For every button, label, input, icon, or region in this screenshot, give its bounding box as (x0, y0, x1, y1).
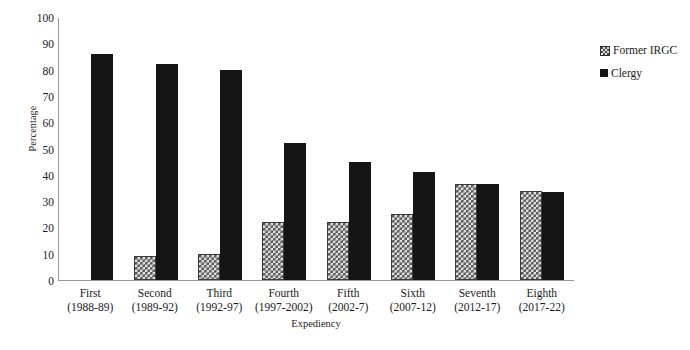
bar-slot (220, 18, 252, 280)
x-label-period: (2017-22) (510, 300, 575, 314)
bar-irgc[interactable] (134, 256, 156, 280)
y-axis-tick-20: 20 (24, 223, 54, 234)
bar-slot (59, 18, 91, 280)
bar-slot (317, 18, 349, 280)
bar-slot (91, 18, 123, 280)
bar-clergy[interactable] (220, 70, 242, 280)
y-axis-tick-50: 50 (24, 144, 54, 155)
bar-group (317, 18, 381, 280)
bar-irgc[interactable] (327, 222, 349, 280)
bar-slot (188, 18, 220, 280)
y-axis-tick-40: 40 (24, 170, 54, 181)
bar-slot (284, 18, 316, 280)
bar-slot (123, 18, 155, 280)
bar-slot (252, 18, 284, 280)
bar-group (123, 18, 187, 280)
bar-clergy[interactable] (284, 143, 306, 280)
checkered-square-icon (600, 46, 610, 56)
y-axis-tick-80: 80 (24, 65, 54, 76)
bar-group (445, 18, 509, 280)
x-label-name: Third (206, 287, 232, 299)
y-axis-tick-labels: 1009080706050403020100 (24, 0, 54, 350)
bar-irgc[interactable] (198, 254, 220, 280)
legend-item[interactable]: Former IRGC (600, 44, 688, 57)
bar-irgc[interactable] (520, 191, 542, 280)
bar-slot (510, 18, 542, 280)
x-axis-tick-labels: First(1988-89)Second(1989-92)Third(1992-… (58, 286, 574, 314)
bar-irgc[interactable] (455, 184, 477, 280)
x-label-name: Eighth (526, 287, 557, 299)
x-axis-title: Expediency (58, 318, 574, 329)
x-axis-tick-label: Second(1989-92) (123, 286, 188, 314)
x-axis-tick-label: Third(1992-97) (187, 286, 252, 314)
bar-slot (542, 18, 574, 280)
x-label-period: (1989-92) (123, 300, 188, 314)
y-axis-tick-30: 30 (24, 197, 54, 208)
x-label-name: Seventh (459, 287, 496, 299)
x-axis-tick-label: Eighth(2017-22) (510, 286, 575, 314)
bar-slot (413, 18, 445, 280)
bar-group (252, 18, 316, 280)
x-label-period: (2012-17) (445, 300, 510, 314)
x-label-name: Sixth (401, 287, 425, 299)
bar-irgc[interactable] (262, 222, 284, 280)
legend-item-label: Former IRGC (613, 44, 677, 57)
x-axis-tick-label: Fourth(1997-2002) (252, 286, 317, 314)
y-axis-tick-90: 90 (24, 39, 54, 50)
solid-square-icon (600, 69, 608, 77)
legend-item-label: Clergy (611, 67, 642, 80)
y-axis-tick-60: 60 (24, 118, 54, 129)
x-label-period: (1992-97) (187, 300, 252, 314)
bar-irgc[interactable] (391, 214, 413, 280)
y-axis-tick-0: 0 (24, 276, 54, 287)
bar-chart: Percentage 1009080706050403020100 First(… (0, 0, 690, 350)
x-label-name: Fourth (268, 287, 299, 299)
x-axis-tick-label: Seventh(2012-17) (445, 286, 510, 314)
x-axis-tick-label: Fifth(2002-7) (316, 286, 381, 314)
bar-group (381, 18, 445, 280)
bar-groups (59, 18, 574, 280)
bar-clergy[interactable] (91, 54, 113, 280)
y-axis-tick-70: 70 (24, 91, 54, 102)
bar-slot (445, 18, 477, 280)
y-axis-tick-100: 100 (24, 13, 54, 24)
plot-area (58, 18, 574, 281)
bar-slot (381, 18, 413, 280)
bar-clergy[interactable] (477, 184, 499, 280)
bar-clergy[interactable] (542, 192, 564, 280)
bar-clergy[interactable] (349, 162, 371, 280)
x-label-period: (1988-89) (58, 300, 123, 314)
x-label-name: Second (138, 287, 172, 299)
bar-group (188, 18, 252, 280)
bar-slot (156, 18, 188, 280)
bar-clergy[interactable] (413, 172, 435, 280)
legend: Former IRGCClergy (600, 44, 688, 90)
bar-clergy[interactable] (156, 64, 178, 280)
x-label-name: First (80, 287, 101, 299)
bar-group (510, 18, 574, 280)
y-axis-tick-10: 10 (24, 249, 54, 260)
x-axis-tick-label: Sixth(2007-12) (381, 286, 446, 314)
x-label-name: Fifth (337, 287, 359, 299)
x-label-period: (2007-12) (381, 300, 446, 314)
bar-group (59, 18, 123, 280)
legend-item[interactable]: Clergy (600, 67, 688, 80)
x-label-period: (1997-2002) (252, 300, 317, 314)
bar-slot (349, 18, 381, 280)
bar-slot (477, 18, 509, 280)
x-label-period: (2002-7) (316, 300, 381, 314)
x-axis-tick-label: First(1988-89) (58, 286, 123, 314)
